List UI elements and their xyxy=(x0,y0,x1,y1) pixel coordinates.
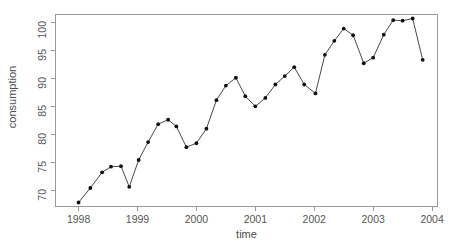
x-tick-mark xyxy=(432,207,433,211)
data-point xyxy=(391,18,395,22)
data-point xyxy=(302,83,306,87)
x-tick-label: 2004 xyxy=(402,213,458,225)
data-point xyxy=(156,122,160,126)
data-point xyxy=(185,145,189,149)
series-points xyxy=(77,17,425,205)
data-point xyxy=(119,164,123,168)
y-tick-label: 100 xyxy=(0,16,48,28)
x-tick-mark xyxy=(314,207,315,211)
data-point xyxy=(342,27,346,31)
x-axis-title: time xyxy=(55,228,438,240)
data-point xyxy=(273,83,277,87)
x-tick-mark xyxy=(78,207,79,211)
y-tick-label: 85 xyxy=(0,100,48,112)
y-tick-label: 95 xyxy=(0,44,48,56)
data-point xyxy=(421,58,425,62)
data-point xyxy=(314,92,318,96)
data-point xyxy=(109,165,113,169)
data-point xyxy=(77,201,81,205)
x-tick-label: 1999 xyxy=(107,213,167,225)
data-point xyxy=(166,118,170,122)
data-point xyxy=(243,94,247,98)
x-tick-mark xyxy=(373,207,374,211)
x-tick-label: 2000 xyxy=(166,213,226,225)
data-point xyxy=(401,19,405,23)
x-tick-label: 1998 xyxy=(49,213,109,225)
x-tick-mark xyxy=(196,207,197,211)
data-point xyxy=(146,140,150,144)
data-point xyxy=(215,98,219,102)
data-point xyxy=(253,104,257,108)
data-point xyxy=(263,96,267,100)
x-tick-mark xyxy=(255,207,256,211)
data-point xyxy=(292,65,296,69)
data-point xyxy=(351,33,355,37)
y-tick-label: 90 xyxy=(0,72,48,84)
y-tick-label: 75 xyxy=(0,156,48,168)
data-point xyxy=(100,170,104,174)
chart-container: consumption 707580859095100 199819992000… xyxy=(0,0,458,250)
series-line xyxy=(79,18,423,202)
data-point xyxy=(382,33,386,37)
x-tick-mark xyxy=(137,207,138,211)
data-point xyxy=(332,39,336,43)
data-point xyxy=(371,56,375,60)
data-point xyxy=(137,158,141,162)
data-point xyxy=(411,17,415,21)
data-point xyxy=(88,186,92,190)
x-tick-label: 2002 xyxy=(284,213,344,225)
data-point xyxy=(127,185,131,189)
data-point xyxy=(224,84,228,88)
data-point xyxy=(174,125,178,129)
y-tick-label: 80 xyxy=(0,128,48,140)
y-tick-label: 70 xyxy=(0,184,48,196)
data-point xyxy=(205,127,209,131)
data-point xyxy=(195,141,199,145)
x-tick-label: 2003 xyxy=(343,213,403,225)
x-tick-label: 2001 xyxy=(225,213,285,225)
data-point xyxy=(234,76,238,80)
series-layer xyxy=(55,14,438,207)
data-point xyxy=(283,74,287,78)
data-point xyxy=(323,53,327,57)
data-point xyxy=(362,61,366,65)
